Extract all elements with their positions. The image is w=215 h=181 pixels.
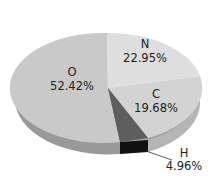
pie-side-h <box>120 140 148 154</box>
label-h-name: H <box>180 146 189 160</box>
label-n-pct: 22.95% <box>123 51 167 65</box>
label-c-name: C <box>152 87 160 101</box>
label-o-name: O <box>67 65 76 79</box>
label-o-pct: 52.42% <box>50 79 94 93</box>
label-n-name: N <box>141 37 150 51</box>
label-c-pct: 19.68% <box>134 101 178 115</box>
label-h-pct: 4.96% <box>166 159 203 173</box>
pie-chart: O 52.42% N 22.95% C 19.68% H 4.96% <box>0 0 215 181</box>
